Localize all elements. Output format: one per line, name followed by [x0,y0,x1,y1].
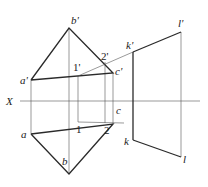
label-a-prime: a' [20,74,29,86]
label-k-prime: k' [126,39,134,51]
label-k: k [124,135,130,147]
x-axis-label: X [5,95,14,107]
label-a: a [21,128,27,140]
projection-diagram: X a' b' c' 1' 2' k' l' a b c 1 2 k l [0,0,208,187]
triangle-top-view [31,124,113,174]
label-c-prime: c' [115,65,123,77]
line-kprime-lprime [133,32,181,52]
label-1-prime: 1' [73,61,81,73]
line-k-l [133,140,181,157]
label-2: 2 [104,124,110,136]
line-1-2 [78,122,124,123]
label-l-prime: l' [178,17,184,29]
label-l: l [183,153,186,165]
label-b: b [62,155,68,167]
label-c: c [116,104,121,116]
label-b-prime: b' [71,14,80,26]
label-1: 1 [76,123,82,135]
label-2-prime: 2' [101,50,109,62]
